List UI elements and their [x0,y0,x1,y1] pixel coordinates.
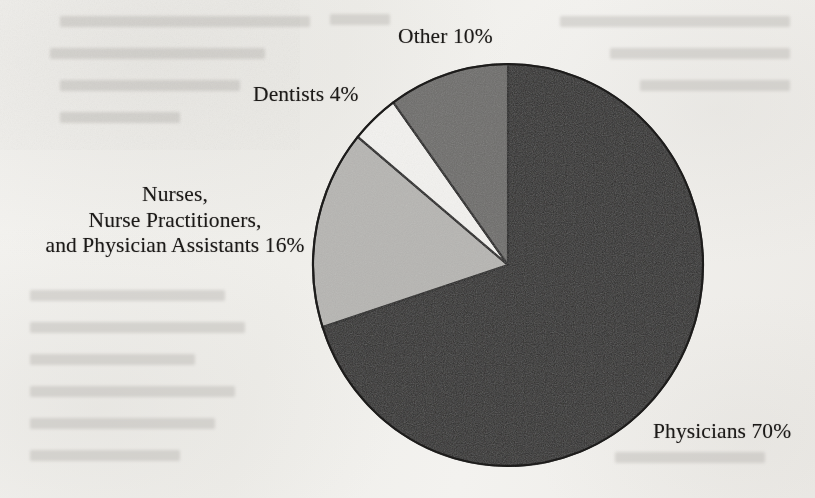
slice-label-nurses-line3: and Physician Assistants 16% [30,233,320,259]
slice-label-physicians: Physicians 70% [653,419,791,445]
slice-label-nurses: Nurses, Nurse Practitioners, and Physici… [30,182,320,259]
slice-label-nurses-line2: Nurse Practitioners, [30,208,320,234]
pie-chart: Other 10% Dentists 4% Nurses, Nurse Prac… [0,0,815,498]
slice-label-other: Other 10% [398,24,493,50]
slice-label-nurses-line1: Nurses, [30,182,320,208]
slice-label-dentists: Dentists 4% [253,82,359,108]
